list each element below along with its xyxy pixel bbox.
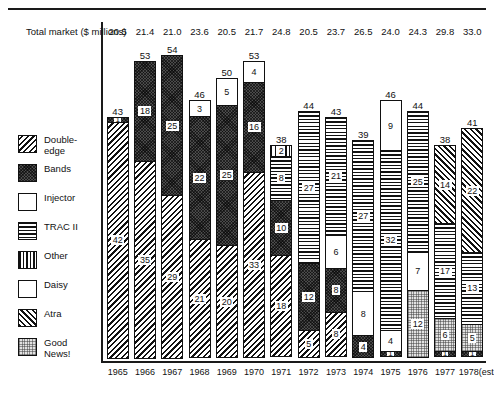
bar-segment-bands[interactable]: 25 [216, 105, 238, 246]
bar-column[interactable]: 542529 [161, 56, 183, 361]
bar-segment-tracii[interactable]: 8 [270, 156, 292, 201]
bar-segment-value: 3 [197, 104, 202, 114]
bar-column[interactable]: 392784 [352, 141, 374, 361]
y-axis-line [101, 22, 103, 363]
bar-segment-value: 7 [415, 266, 420, 276]
bar-segment-daisy[interactable]: 8 [352, 291, 374, 336]
legend-item-label: Bands [44, 163, 71, 175]
bar-segment-tracii[interactable]: 17 [434, 223, 456, 319]
other-swatch-icon [18, 251, 37, 269]
bar-segment-bands[interactable]: 25 [161, 55, 183, 196]
bar-segment-injector[interactable]: 5 [216, 78, 238, 106]
bar-total-label: 41 [461, 117, 483, 128]
legend-item-other[interactable]: Other [18, 250, 98, 279]
bar-segment-value: 25 [220, 170, 233, 180]
bar-column[interactable]: 41221351 [461, 129, 483, 361]
bar-segment-bands[interactable]: 12 [298, 263, 320, 331]
bar-segment-value: 5 [468, 333, 476, 343]
bar-segment-daisy[interactable]: 4 [380, 330, 402, 353]
bar-segment-tracii[interactable]: 25 [407, 111, 429, 252]
bar-segment-bands[interactable]: 16 [243, 82, 265, 172]
bar-segment-value: 8 [361, 309, 366, 319]
bar-segment-value: 32 [384, 235, 397, 245]
bar-segment-double-edge[interactable]: 33 [243, 172, 265, 358]
x-axis-label: 1973 [322, 366, 349, 382]
bar-segment-double-edge[interactable]: 35 [134, 161, 156, 359]
bar-segment-double-edge[interactable]: 42 [107, 122, 129, 359]
bar-segment-double-edge[interactable]: 5 [298, 330, 320, 358]
legend-item-atra[interactable]: Atra [18, 308, 98, 337]
bar-segment-bands[interactable]: 22 [189, 116, 211, 240]
bar-segment-double-edge[interactable]: 8 [325, 312, 347, 357]
bar-segment-bands[interactable]: 1 [434, 351, 456, 357]
bar-segment-value: 35 [138, 255, 151, 265]
bar-segment-goodnews[interactable]: 5 [461, 324, 483, 352]
bar-column[interactable]: 4632221 [189, 101, 211, 361]
bar-segment-injector[interactable]: 3 [189, 100, 211, 117]
bar-segment-value: 16 [248, 122, 261, 132]
legend-item-bands[interactable]: Bands [18, 163, 98, 192]
bar-segment-value: 2 [277, 146, 285, 156]
bar-segment-tracii[interactable]: 13 [461, 252, 483, 325]
bar-segment-value: 27 [302, 183, 315, 193]
bar-segment-bands[interactable]: 1 [380, 351, 402, 357]
x-axis-label: 1966 [131, 366, 158, 382]
bar-column[interactable]: 4321688 [325, 118, 347, 361]
bar-segment-double-edge[interactable]: 21 [189, 239, 211, 358]
legend-item-daisy[interactable]: Daisy [18, 279, 98, 308]
bar-segment-value: 8 [277, 173, 285, 183]
legend-item-double-edge[interactable]: Double- edge [18, 134, 98, 163]
bar-column[interactable]: 4427125 [298, 112, 320, 361]
bar-segment-tracii[interactable]: 27 [298, 111, 320, 264]
bands-swatch-icon [18, 164, 37, 182]
bar-segment-goodnews[interactable]: 6 [434, 318, 456, 352]
bar-column[interactable]: 531835 [134, 62, 156, 361]
x-axis-label: 1976 [404, 366, 431, 382]
bar-column[interactable]: 4693241 [380, 101, 402, 361]
bar-total-label: 43 [107, 106, 129, 117]
bar-column[interactable]: 5341633 [243, 62, 265, 361]
bar-segment-value: 20 [220, 297, 233, 307]
bar-segment-value: 29 [166, 272, 179, 282]
legend-item-label: Atra [44, 308, 61, 320]
bar-segment-goodnews[interactable]: 12 [407, 290, 429, 358]
bar-total-label: 38 [270, 134, 292, 145]
bar-segment-bands[interactable]: 1 [461, 351, 483, 357]
goodnews-swatch-icon [18, 338, 37, 356]
bar-segment-tracii[interactable]: 27 [352, 140, 374, 293]
bar-column[interactable]: 5052520 [216, 79, 238, 362]
bar-segment-double-edge[interactable]: 29 [161, 195, 183, 359]
bar-segment-daisy[interactable]: 6 [325, 235, 347, 269]
x-axis-label: 1977 [431, 366, 458, 382]
bar-segment-atra[interactable]: 14 [434, 145, 456, 224]
bar-segment-daisy[interactable]: 7 [407, 252, 429, 292]
legend-item-injector[interactable]: Injector [18, 192, 98, 221]
bar-segment-tracii[interactable]: 32 [380, 150, 402, 331]
bar-column[interactable]: 38141761 [434, 146, 456, 361]
x-axis-label: 1965 [104, 366, 131, 382]
bar-column[interactable]: 38281018 [270, 146, 292, 361]
bar-segment-double-edge[interactable]: 18 [270, 255, 292, 357]
bar-segment-bands[interactable]: 10 [270, 200, 292, 257]
bar-segment-injector[interactable]: 9 [380, 100, 402, 151]
bar-segment-value: 18 [138, 106, 151, 116]
bar-segment-injector[interactable]: 4 [243, 61, 265, 84]
bar-segment-value: 6 [333, 247, 338, 257]
bar-segment-bands[interactable]: 8 [325, 268, 347, 313]
bar-segment-value: 1 [442, 351, 448, 357]
legend-item-tracii[interactable]: TRAC II [18, 221, 98, 250]
bar-segment-value: 4 [252, 67, 257, 77]
atra-swatch-icon [18, 309, 37, 327]
legend-item-goodnews[interactable]: Good News! [18, 337, 98, 366]
bar-segment-atra[interactable]: 22 [461, 128, 483, 252]
bar-column[interactable]: 4425712 [407, 112, 429, 361]
bar-segment-tracii[interactable]: 21 [325, 117, 347, 236]
bar-segment-bands[interactable]: 4 [352, 335, 374, 358]
bar-column[interactable]: 43142 [107, 118, 129, 361]
bar-segment-value: 12 [411, 319, 424, 329]
bar-segment-double-edge[interactable]: 20 [216, 245, 238, 358]
bar-segment-value: 1 [469, 351, 475, 357]
x-axis-label: 1968 [186, 366, 213, 382]
bar-segment-bands[interactable]: 18 [134, 61, 156, 163]
tracii-swatch-icon [18, 222, 37, 240]
